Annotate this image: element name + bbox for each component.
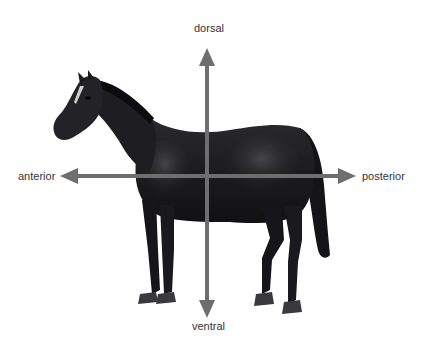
anatomy-diagram: dorsal ventral anterior posterior [0,0,422,348]
ventral-label: ventral [192,320,225,332]
dorsal-label: dorsal [194,22,224,34]
anterior-label: anterior [18,170,55,182]
arrow-left-icon [60,168,78,184]
arrow-up-icon [199,48,215,66]
posterior-label: posterior [362,170,405,182]
horse-diagram-graphic [0,0,422,348]
horse-icon [53,70,330,314]
arrow-down-icon [199,300,215,318]
arrow-right-icon [338,168,356,184]
